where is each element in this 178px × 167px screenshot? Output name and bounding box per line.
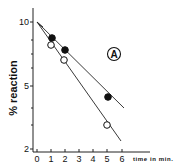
y-tick-5: 5	[24, 81, 29, 91]
panel-label: A	[110, 49, 117, 60]
reaction-kinetics-chart: 10 5 2 0 1 2 3 4 5 6 time in min.	[0, 0, 178, 167]
x-axis-label: time in min.	[133, 156, 174, 162]
x-axis	[33, 149, 150, 152]
y-tick-2: 2	[24, 144, 29, 154]
data-point-filled-t1	[49, 35, 56, 42]
y-axis-label: % reaction	[7, 53, 19, 123]
x-tick-4: 4	[90, 154, 95, 164]
data-point-filled-t5	[105, 94, 112, 101]
x-tick-labels: 0 1 2 3 4 5 6	[34, 154, 124, 164]
x-tick-5: 5	[104, 154, 109, 164]
x-tick-3: 3	[76, 154, 81, 164]
data-point-open-t2	[61, 57, 68, 64]
panel-label-badge: A	[108, 48, 121, 61]
x-tick-2: 2	[62, 154, 67, 164]
y-tick-labels: 10 5 2	[19, 17, 29, 154]
x-tick-1: 1	[48, 154, 53, 164]
y-tick-10: 10	[19, 17, 29, 27]
y-axis	[30, 8, 33, 152]
data-point-open-t5	[104, 122, 111, 129]
data-point-open-t1	[48, 42, 55, 49]
x-tick-6: 6	[119, 154, 124, 164]
x-tick-0: 0	[34, 154, 39, 164]
data-point-filled-t2	[62, 47, 69, 54]
series-filled-circles	[49, 35, 112, 101]
